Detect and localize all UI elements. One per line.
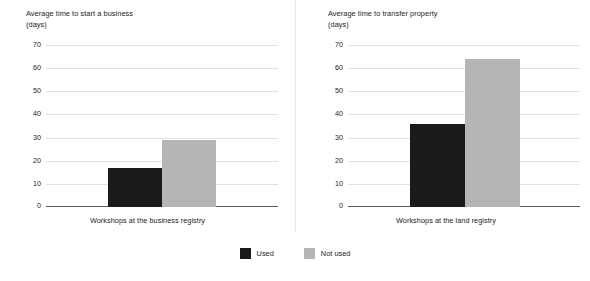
- chart-panel-transfer-property: Average time to transfer property (days)…: [295, 0, 590, 232]
- ytick-label-60-left: 60: [33, 64, 41, 71]
- ytick-label-30-left: 30: [33, 134, 41, 141]
- chart-title-right-unit: (days): [328, 20, 438, 31]
- charts-row: Average time to start a business (days) …: [0, 0, 590, 232]
- ytick-label-10-right: 10: [335, 180, 343, 187]
- legend-item-not-used: Not used: [304, 248, 351, 259]
- bar-right-not-used: [465, 59, 520, 207]
- legend-swatch-used-icon: [240, 248, 251, 259]
- plot-area-left: 70 60 50 40 30 20 10 0: [46, 45, 278, 207]
- chart-title-right-text: Average time to transfer property: [328, 9, 438, 18]
- ytick-label-50-right: 50: [335, 87, 343, 94]
- legend-swatch-not-used-icon: [304, 248, 315, 259]
- two-panel-bar-chart-figure: Average time to start a business (days) …: [0, 0, 590, 281]
- ytick-label-70-left: 70: [33, 41, 41, 48]
- bars-right: [348, 45, 580, 207]
- legend-label-used: Used: [257, 250, 274, 258]
- plot-area-right: 70 60 50 40 30 20 10 0: [348, 45, 580, 207]
- ytick-label-20-left: 20: [33, 157, 41, 164]
- ytick-label-40-left: 40: [33, 110, 41, 117]
- chart-legend: Used Not used: [0, 248, 590, 259]
- ytick-label-60-right: 60: [335, 64, 343, 71]
- legend-label-not-used: Not used: [321, 250, 351, 258]
- chart-title-left: Average time to start a business (days): [26, 9, 133, 30]
- ytick-label-70-right: 70: [335, 41, 343, 48]
- x-axis-label-left: Workshops at the business registry: [0, 216, 295, 225]
- chart-title-left-text: Average time to start a business: [26, 9, 133, 18]
- ytick-label-0-left: 0: [37, 202, 41, 209]
- bar-right-used: [410, 124, 465, 207]
- bar-left-used: [108, 168, 162, 207]
- ytick-label-50-left: 50: [33, 87, 41, 94]
- bars-left: [46, 45, 278, 207]
- chart-title-left-unit: (days): [26, 20, 133, 31]
- ytick-label-20-right: 20: [335, 157, 343, 164]
- bar-left-not-used: [162, 140, 216, 207]
- x-axis-label-right: Workshops at the land registry: [296, 216, 590, 225]
- ytick-label-30-right: 30: [335, 134, 343, 141]
- chart-panel-start-a-business: Average time to start a business (days) …: [0, 0, 295, 232]
- ytick-label-40-right: 40: [335, 110, 343, 117]
- ytick-label-10-left: 10: [33, 180, 41, 187]
- chart-title-right: Average time to transfer property (days): [328, 9, 438, 30]
- ytick-label-0-right: 0: [339, 202, 343, 209]
- legend-item-used: Used: [240, 248, 274, 259]
